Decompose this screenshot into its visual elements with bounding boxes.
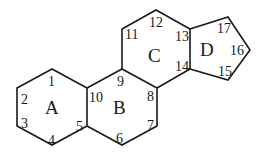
atom-label-9: 9 [117,74,124,89]
atom-label-15: 15 [218,64,232,79]
atom-label-2: 2 [21,92,28,107]
atom-label-10: 10 [89,90,103,105]
ring-label-d: D [200,39,214,60]
atom-label-17: 17 [217,21,231,36]
ring-label-b: B [113,97,126,118]
atom-label-8: 8 [147,89,154,104]
atom-label-13: 13 [175,29,189,44]
atom-label-7: 7 [147,118,154,133]
atom-label-4: 4 [48,133,55,148]
atom-label-6: 6 [116,131,123,146]
atom-label-11: 11 [125,27,138,42]
ring-label-c: C [148,45,161,66]
atom-label-16: 16 [230,43,244,58]
atom-label-3: 3 [21,116,28,131]
atom-label-12: 12 [149,15,163,30]
steroid-skeleton-diagram: A B C D 1 2 3 4 5 6 7 8 9 10 11 12 13 14… [0,0,263,156]
ring-label-a: A [45,97,59,118]
atom-label-5: 5 [76,119,83,134]
atom-label-14: 14 [175,59,189,74]
atom-label-1: 1 [48,74,55,89]
